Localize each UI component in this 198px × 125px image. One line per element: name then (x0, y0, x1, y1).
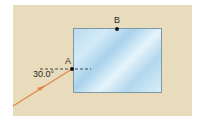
point-a-label: A (65, 57, 71, 66)
point-b-marker (115, 27, 119, 31)
point-b-label: B (114, 16, 120, 25)
point-a-marker (70, 67, 74, 71)
diagram-lines (0, 0, 198, 125)
angle-label: 30.0° (33, 70, 54, 79)
